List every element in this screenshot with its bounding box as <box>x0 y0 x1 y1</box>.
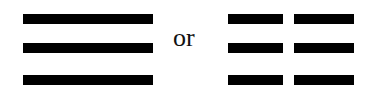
broken-line-3-right <box>294 75 354 85</box>
broken-line-2-left <box>228 43 283 53</box>
solid-line-3 <box>23 75 153 85</box>
solid-line-1 <box>23 14 153 24</box>
solid-line-2 <box>23 43 153 53</box>
broken-line-1-right <box>294 14 354 24</box>
separator-text: or <box>173 25 195 51</box>
broken-line-1-left <box>228 14 283 24</box>
broken-line-3-left <box>228 75 283 85</box>
broken-line-2-right <box>294 43 354 53</box>
